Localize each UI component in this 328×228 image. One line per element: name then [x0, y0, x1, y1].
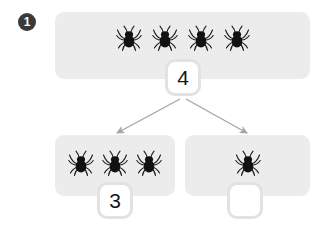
part-left-answer-box[interactable]: 3 [97, 182, 133, 219]
whole-answer-box[interactable]: 4 [165, 59, 201, 96]
whole-object-group [55, 14, 310, 58]
part-right-object-group [185, 139, 310, 183]
arrow-to-right-part [186, 99, 247, 133]
part-right-answer-box[interactable] [227, 182, 263, 219]
spider-icon [67, 144, 95, 178]
spider-icon [135, 144, 163, 178]
spider-icon [115, 19, 143, 53]
part-left-answer-value: 3 [109, 190, 121, 211]
whole-answer-value: 4 [177, 67, 189, 88]
arrow-to-left-part [117, 99, 180, 133]
part-left-object-group [55, 139, 175, 183]
spider-icon [223, 19, 251, 53]
spider-icon [187, 19, 215, 53]
worksheet-canvas: 1 [0, 0, 328, 228]
spider-icon [101, 144, 129, 178]
question-number-badge: 1 [18, 13, 36, 31]
spider-icon [234, 144, 262, 178]
spider-icon [151, 19, 179, 53]
